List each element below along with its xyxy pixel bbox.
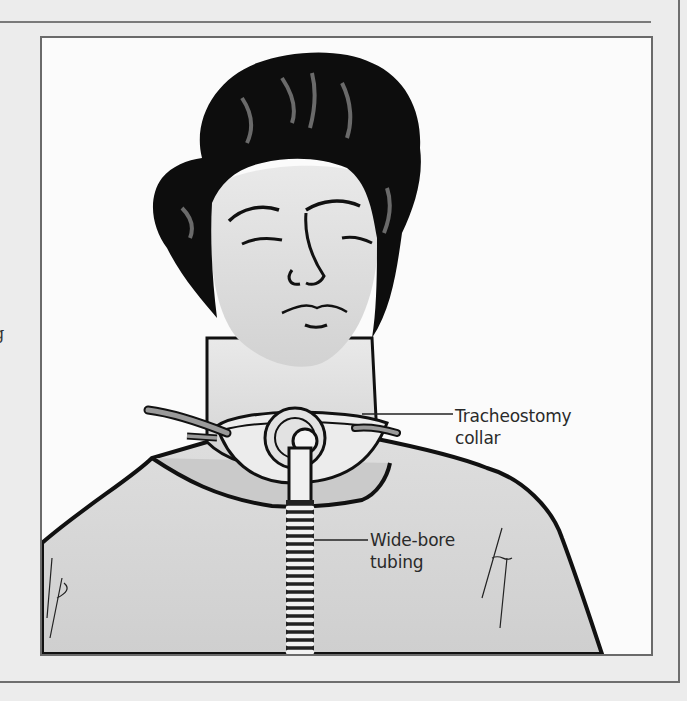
label-wide-bore-tubing: Wide-bore tubing <box>370 529 455 573</box>
patient-illustration <box>42 38 651 654</box>
clipped-text-fragment: g <box>0 324 4 343</box>
wide-bore-tubing <box>286 448 314 654</box>
label-wide-bore-tubing-line2: tubing <box>370 551 455 573</box>
figure-box: Tracheostomy collar Wide-bore tubing <box>40 36 653 656</box>
outer-frame-right <box>678 0 680 683</box>
label-tracheostomy-collar-line2: collar <box>455 427 571 449</box>
label-wide-bore-tubing-line1: Wide-bore <box>370 529 455 551</box>
label-tracheostomy-collar-line1: Tracheostomy <box>455 405 571 427</box>
top-rule <box>0 21 651 23</box>
outer-frame-bottom <box>0 681 680 683</box>
label-tracheostomy-collar: Tracheostomy collar <box>455 405 571 449</box>
